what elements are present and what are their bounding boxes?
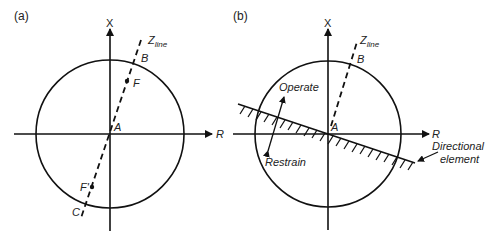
directional-label-line1: Directional: [432, 140, 485, 152]
point-b-label: B: [357, 53, 364, 65]
x-axis-label: X: [106, 17, 114, 29]
panel-b: (b) R X Zline B A: [233, 9, 485, 230]
point-f-label: F: [133, 77, 141, 89]
zline-label: Zline: [359, 34, 380, 49]
r-axis-label: R: [216, 128, 224, 140]
restrain-label: Restrain: [265, 156, 306, 168]
point-f-prime: [90, 185, 94, 189]
panel-a: (a) R X Zline F F' B A C: [14, 9, 224, 231]
x-axis-label: X: [324, 17, 332, 29]
zline-dashed: [331, 42, 357, 126]
panel-a-label: (a): [14, 9, 29, 23]
directional-pointer-arrow: [418, 152, 438, 161]
directional-label-line2: element: [440, 153, 480, 165]
point-c-label: C: [72, 206, 80, 218]
operate-restrain-arrow: [268, 97, 284, 151]
point-a-label: A: [113, 121, 121, 133]
operate-label: Operate: [279, 81, 319, 93]
point-b-label: B: [141, 52, 148, 64]
diagram-canvas: (a) R X Zline F F' B A C (b) R X Zline: [0, 0, 495, 243]
point-f: [125, 79, 129, 83]
zline-dashed: [81, 40, 141, 218]
panel-b-label: (b): [233, 9, 248, 23]
r-axis-label: R: [432, 128, 440, 140]
zline-label: Zline: [147, 34, 168, 49]
point-f-prime-label: F': [80, 181, 90, 193]
point-a-label: A: [330, 121, 338, 133]
